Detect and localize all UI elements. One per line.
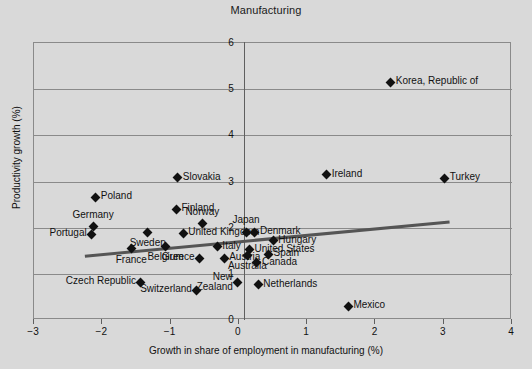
x-tick-label: −1 — [158, 326, 182, 337]
data-point-label: Italy — [222, 241, 240, 252]
x-tick-label: −2 — [89, 326, 113, 337]
gridline-horizontal — [34, 182, 512, 183]
chart-figure: Manufacturing Korea, Republic ofTurkeyIr… — [0, 0, 532, 369]
data-point-label: Czech Republic — [66, 276, 136, 287]
y-tick-label: 4 — [214, 129, 234, 140]
chart-title: Manufacturing — [0, 4, 532, 16]
y-axis-title: Productivity growth (%) — [11, 78, 22, 238]
gridline-horizontal — [34, 89, 512, 90]
data-point-label: Mexico — [353, 300, 385, 311]
x-axis-title: Growth in share of employment in manufac… — [0, 345, 532, 356]
data-point-label: Ireland — [332, 169, 363, 180]
x-tick-mark — [238, 319, 239, 324]
x-tick-label: 3 — [431, 326, 455, 337]
data-point-label: Canada — [262, 257, 297, 268]
data-point-label: Poland — [101, 191, 132, 202]
x-tick-mark — [511, 319, 512, 324]
x-tick-mark — [101, 319, 102, 324]
data-point-label: Japan — [232, 215, 259, 226]
data-point-label: Korea, Republic of — [396, 76, 478, 87]
y-tick-label: 1 — [214, 267, 234, 278]
y-tick-label: 3 — [214, 175, 234, 186]
data-point-label: Greece — [162, 252, 195, 263]
y-tick-label: 2 — [214, 221, 234, 232]
data-point-label: Portugal — [49, 228, 86, 239]
x-tick-label: 1 — [294, 326, 318, 337]
x-tick-mark — [306, 319, 307, 324]
x-tick-mark — [443, 319, 444, 324]
x-tick-label: 4 — [499, 326, 523, 337]
gridline-horizontal — [34, 135, 512, 136]
data-point-label: Germany — [73, 210, 114, 221]
x-tick-label: 2 — [362, 326, 386, 337]
y-axis-line — [244, 42, 245, 320]
y-tick-label: 0 — [214, 314, 234, 325]
data-point-label: Turkey — [450, 172, 480, 183]
y-tick-label: 6 — [214, 37, 234, 48]
y-tick-label: 5 — [214, 83, 234, 94]
data-point-label: Netherlands — [263, 279, 317, 290]
data-point-label: Norway — [185, 207, 219, 218]
x-tick-label: 0 — [226, 326, 250, 337]
data-point-label: Switzerland — [140, 284, 192, 295]
x-tick-mark — [33, 319, 34, 324]
x-tick-mark — [170, 319, 171, 324]
x-tick-label: −3 — [21, 326, 45, 337]
data-point-label: France — [116, 255, 147, 266]
x-tick-mark — [374, 319, 375, 324]
